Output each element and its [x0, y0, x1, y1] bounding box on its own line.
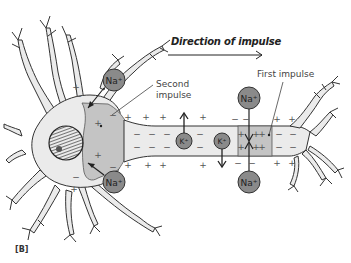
svg-text:+: +	[124, 160, 132, 170]
svg-text:Na⁺: Na⁺	[106, 76, 123, 86]
svg-text:−: −	[234, 158, 242, 168]
svg-text:−: −	[231, 114, 239, 124]
svg-text:−: −	[148, 142, 156, 152]
svg-text:−: −	[133, 129, 141, 139]
svg-text:−: −	[133, 142, 141, 152]
nucleus	[49, 126, 83, 160]
svg-text:Na⁺: Na⁺	[241, 94, 258, 104]
svg-text:+: +	[159, 160, 167, 170]
second-impulse-line1: Second	[156, 79, 191, 90]
svg-text:K⁺: K⁺	[180, 137, 189, 146]
second-impulse-line2: impulse	[156, 90, 191, 101]
first-impulse-label: First impulse	[257, 69, 314, 79]
svg-text:−: −	[196, 142, 204, 152]
svg-text:+: +	[94, 150, 102, 160]
panel-label: [B]	[15, 245, 28, 254]
svg-text:+: +	[70, 184, 78, 194]
svg-text:−: −	[163, 129, 171, 139]
svg-text:−: −	[148, 129, 156, 139]
svg-text:−: −	[74, 91, 82, 101]
svg-text:−: −	[109, 162, 117, 172]
svg-text:−: −	[275, 129, 283, 139]
svg-text:+: +	[288, 158, 296, 168]
svg-text:+: +	[159, 112, 167, 122]
svg-text:+: +	[199, 112, 207, 122]
second-impulse-label: Second impulse	[156, 79, 191, 101]
axon-hillock-depolarized	[82, 103, 126, 180]
svg-text:K⁺: K⁺	[218, 137, 227, 146]
svg-text:−: −	[248, 158, 256, 168]
neuron-impulse-diagram: Na⁺ Na⁺ Na⁺ Na⁺ K⁺	[0, 0, 351, 263]
svg-text:+: +	[273, 114, 281, 124]
svg-text:−: −	[109, 110, 117, 120]
direction-arrow	[168, 51, 262, 59]
svg-text:Na⁺: Na⁺	[106, 178, 123, 188]
svg-text:−: −	[275, 142, 283, 152]
svg-text:−: −	[289, 142, 297, 152]
svg-text:+: +	[258, 129, 266, 139]
svg-text:−: −	[242, 114, 250, 124]
svg-text:−: −	[196, 129, 204, 139]
svg-text:+: +	[124, 112, 132, 122]
svg-text:Na⁺: Na⁺	[241, 178, 258, 188]
svg-text:+: +	[142, 112, 150, 122]
svg-text:−: −	[72, 172, 80, 182]
svg-text:+: +	[258, 142, 266, 152]
svg-text:+: +	[237, 129, 245, 139]
svg-text:+: +	[237, 142, 245, 152]
direction-of-impulse-label: Direction of impulse	[171, 36, 281, 47]
svg-text:+: +	[94, 118, 102, 128]
svg-text:+: +	[199, 160, 207, 170]
svg-text:+: +	[273, 158, 281, 168]
svg-text:−: −	[289, 129, 297, 139]
svg-text:+: +	[144, 160, 152, 170]
svg-text:+: +	[288, 114, 296, 124]
svg-text:−: −	[163, 142, 171, 152]
svg-text:+: +	[72, 82, 80, 92]
